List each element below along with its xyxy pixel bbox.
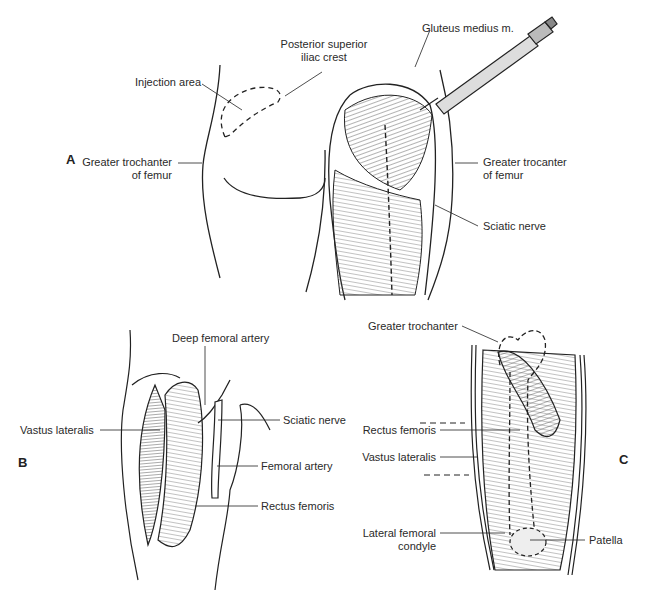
label-greater-trocanter-right: Greater trocanter of femur	[483, 156, 567, 182]
panel-letter-c: C	[619, 452, 628, 467]
label-line-1: Greater trochanter	[80, 156, 172, 169]
label-lateral-femoral-condyle: Lateral femoral condyle	[340, 527, 436, 553]
panel-letter-b: B	[18, 455, 27, 470]
label-patella: Patella	[589, 534, 623, 547]
label-rectus-femoris-c: Rectus femoris	[340, 424, 436, 437]
label-line-1: Lateral femoral	[340, 527, 436, 540]
label-rectus-femoris-b: Rectus femoris	[261, 500, 334, 513]
label-line-1: Greater trocanter	[483, 156, 567, 169]
label-vastus-lateralis-b: Vastus lateralis	[20, 424, 94, 437]
label-greater-trochanter-left: Greater trochanter of femur	[80, 156, 172, 182]
panel-b-drawing	[100, 330, 280, 590]
label-greater-trochanter-c: Greater trochanter	[368, 320, 458, 333]
label-sciatic-nerve-b: Sciatic nerve	[283, 414, 346, 427]
label-injection-area: Injection area	[135, 76, 201, 89]
panel-letter-a: A	[66, 152, 75, 167]
label-vastus-lateralis-c: Vastus lateralis	[340, 451, 436, 464]
panel-c-drawing	[420, 326, 586, 575]
label-gluteus-medius: Gluteus medius m.	[422, 22, 514, 35]
label-deep-femoral-artery: Deep femoral artery	[172, 332, 269, 345]
label-posterior-superior-iliac-crest: Posterior superior iliac crest	[279, 38, 369, 64]
label-line-1: Posterior superior	[279, 38, 369, 51]
label-femoral-artery: Femoral artery	[261, 460, 333, 473]
label-line-2: of femur	[483, 169, 567, 182]
label-line-2: condyle	[340, 540, 436, 553]
label-line-2: iliac crest	[279, 51, 369, 64]
label-line-2: of femur	[80, 169, 172, 182]
label-sciatic-nerve-a: Sciatic nerve	[483, 220, 546, 233]
